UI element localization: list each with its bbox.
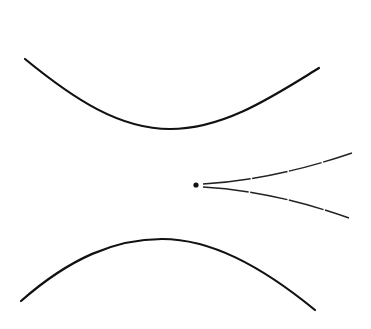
diagram-canvas xyxy=(0,0,371,329)
source-point xyxy=(193,182,198,187)
